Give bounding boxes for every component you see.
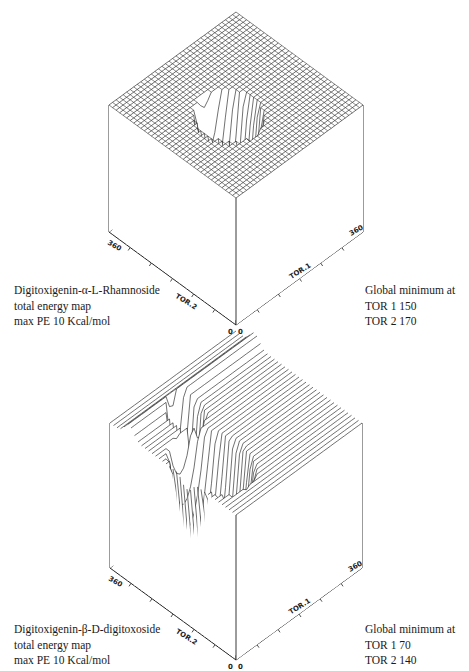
tor2-tick [129, 583, 131, 586]
tor1-tick [257, 645, 259, 648]
tor2-tick [150, 599, 152, 602]
tor2-max-tick-label: 360 [107, 575, 124, 589]
origin-tor1-label: 0 [238, 663, 243, 671]
tor1-tick [341, 583, 343, 586]
tor2-tick [213, 645, 215, 648]
global-min-tor2: TOR 2 140 [365, 653, 455, 669]
caption-left-digitoxoside: Digitoxigenin-β-D-digitoxoside total ene… [14, 622, 160, 669]
global-min-heading: Global minimum at [365, 622, 455, 638]
global-min-tor1: TOR 1 70 [365, 638, 455, 654]
tor1-tick [320, 599, 322, 602]
surface-plot-digitoxoside: 360360TOR.2TOR.100 [0, 0, 469, 671]
compound-name: Digitoxigenin-β-D-digitoxoside [14, 622, 160, 638]
max-pe: max PE 10 Kcal/mol [14, 653, 160, 669]
caption-right-digitoxoside: Global minimum at TOR 1 70 TOR 2 140 [365, 622, 455, 669]
origin-tor2-label: 0 [228, 663, 233, 671]
tor2-tick [171, 614, 173, 617]
tor1-tick [299, 614, 301, 617]
energy-map-digitoxoside: 360360TOR.2TOR.100 Digitoxigenin-β-D-dig… [0, 0, 469, 671]
tor1-tick [278, 629, 280, 632]
tor2-tick [192, 629, 194, 632]
map-type: total energy map [14, 638, 160, 654]
